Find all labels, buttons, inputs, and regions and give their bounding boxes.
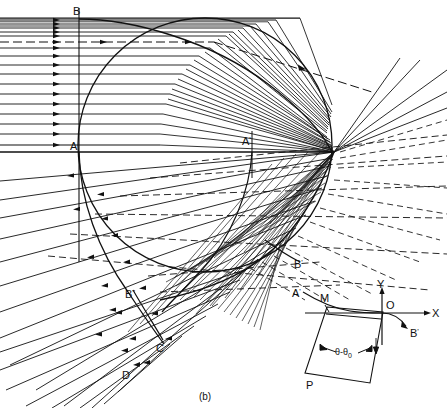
lower-right-dashed-fan xyxy=(250,120,447,300)
inset-label-P: P xyxy=(306,379,313,391)
label-B-prime: B' xyxy=(294,258,303,270)
label-C: C xyxy=(156,342,164,354)
inset-label-M: M xyxy=(320,292,329,304)
inset-label-O: O xyxy=(386,299,395,311)
inset-prism xyxy=(305,307,383,383)
label-B-double-prime: B" xyxy=(125,288,135,300)
inset-angle-label: θ-θ0 xyxy=(335,347,352,359)
lower-right-solid-fan xyxy=(334,58,447,152)
figure-page: B A A' B' B" C D xyxy=(0,0,447,408)
label-A: A xyxy=(70,140,78,152)
inset-curve-arrowhead-Bprime xyxy=(401,321,408,330)
inset-diagram: X Y O A' M B' P θ-θ0 xyxy=(292,278,440,391)
inset-label-B-prime: B' xyxy=(410,327,419,339)
inset-x-axis-arrowhead xyxy=(424,310,431,315)
label-B: B xyxy=(73,5,80,17)
inset-label-X: X xyxy=(432,307,440,319)
label-A-prime: A' xyxy=(242,135,251,147)
caustic-arc-BppC xyxy=(79,152,164,344)
incident-ray-arrowheads xyxy=(53,18,60,147)
figure-caption: (b) xyxy=(199,391,211,402)
inset-label-Y: Y xyxy=(377,278,385,290)
inset-label-A-prime: A' xyxy=(292,287,301,299)
refracted-ray-fan-upper xyxy=(160,18,334,152)
label-D: D xyxy=(122,369,130,381)
outgoing-ray-arrowheads xyxy=(67,173,172,364)
figure-canvas: B A A' B' B" C D xyxy=(0,0,447,408)
main-diagram: B A A' B' B" C D xyxy=(0,5,447,408)
caustic-interior-hatching xyxy=(128,152,334,332)
